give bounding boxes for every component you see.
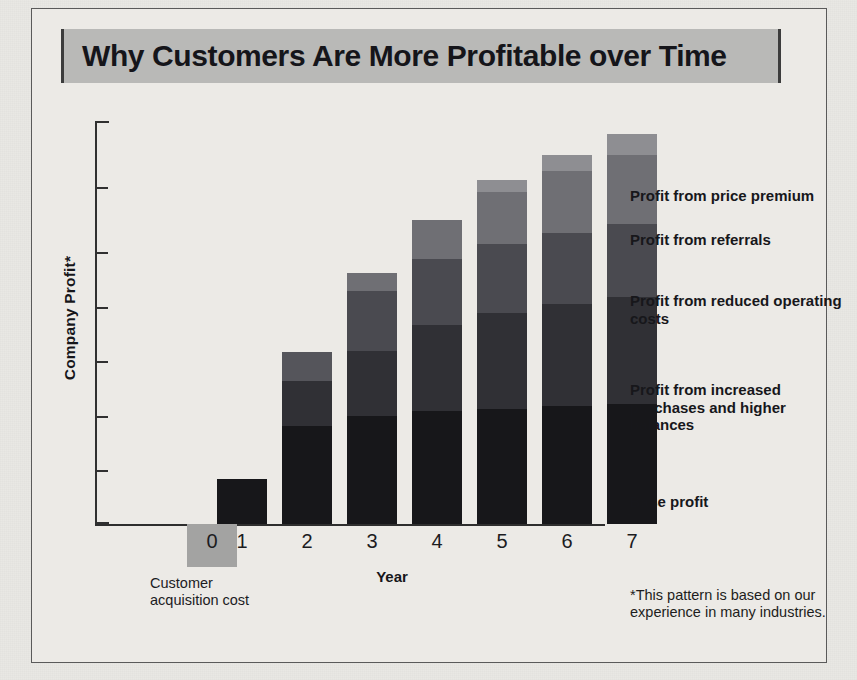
segment-referrals bbox=[412, 220, 462, 259]
segment-reduced-costs bbox=[477, 244, 527, 313]
segment-reduced-costs bbox=[347, 291, 397, 351]
segment-base-profit bbox=[282, 426, 332, 524]
exhibit-frame: Why Customers Are More Profitable over T… bbox=[31, 8, 827, 663]
legend-label-increased-purchases: Profit from increased purchases and high… bbox=[630, 381, 845, 434]
bar-year-5 bbox=[477, 180, 527, 524]
x-tick-label-5: 5 bbox=[477, 530, 527, 553]
segment-increased-purchases bbox=[542, 304, 592, 406]
bar-year-4 bbox=[412, 220, 462, 524]
segment-increased-purchases bbox=[347, 351, 397, 416]
segment-base-profit bbox=[217, 479, 267, 524]
legend-label-reduced-costs: Profit from reduced operating costs bbox=[630, 292, 845, 327]
chart-plot-area: Company Profit* bbox=[32, 9, 828, 664]
segment-base-profit bbox=[347, 416, 397, 524]
segment-base-profit bbox=[412, 411, 462, 524]
bar-year-6 bbox=[542, 155, 592, 524]
segment-referrals bbox=[347, 273, 397, 291]
x-tick-label-1: 1 bbox=[217, 530, 267, 553]
acquisition-cost-note: Customer acquisition cost bbox=[150, 575, 270, 609]
legend-label-base-profit: Base profit bbox=[630, 493, 845, 511]
x-tick-label-2: 2 bbox=[282, 530, 332, 553]
segment-base-profit bbox=[542, 406, 592, 524]
x-tick-label-4: 4 bbox=[412, 530, 462, 553]
x-tick-label-7: 7 bbox=[607, 530, 657, 553]
x-tick-label-3: 3 bbox=[347, 530, 397, 553]
bar-year-2 bbox=[282, 352, 332, 524]
segment-reduced-costs bbox=[412, 259, 462, 325]
bar-group bbox=[32, 9, 828, 664]
segment-base-profit bbox=[477, 409, 527, 524]
legend-label-price-premium: Profit from price premium bbox=[630, 187, 845, 205]
segment-referrals bbox=[477, 192, 527, 244]
segment-increased-purchases bbox=[282, 381, 332, 426]
segment-price-premium bbox=[542, 155, 592, 171]
legend-label-referrals: Profit from referrals bbox=[630, 231, 845, 249]
segment-reduced-costs bbox=[542, 233, 592, 304]
x-tick-label-6: 6 bbox=[542, 530, 592, 553]
bar-year-1 bbox=[217, 479, 267, 524]
segment-increased-purchases bbox=[477, 313, 527, 409]
segment-increased-purchases bbox=[412, 325, 462, 411]
segment-reduced-costs bbox=[282, 352, 332, 381]
segment-price-premium bbox=[477, 180, 527, 192]
bar-year-3 bbox=[347, 273, 397, 524]
segment-price-premium bbox=[607, 134, 657, 155]
segment-referrals bbox=[542, 171, 592, 233]
x-axis-label: Year bbox=[332, 568, 452, 585]
chart-footnote: *This pattern is based on our experience… bbox=[630, 587, 830, 621]
